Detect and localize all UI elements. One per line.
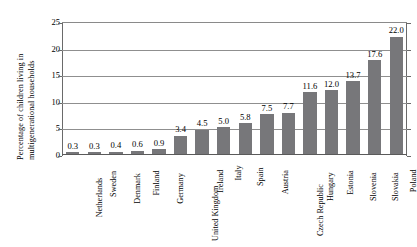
y-tick-mark-right <box>407 50 411 51</box>
x-category-label: Denmark <box>134 173 142 203</box>
x-category-label: Austria <box>282 170 290 194</box>
x-category-label-text: Estonia <box>347 170 355 195</box>
bar-value-label: 22.0 <box>389 26 404 35</box>
bar[interactable] <box>109 152 122 154</box>
bar-value-label: 0.3 <box>67 142 78 151</box>
x-category-label: Slovakia <box>392 172 400 201</box>
y-tick-mark-right <box>407 156 411 157</box>
y-tick-mark-right <box>407 23 411 24</box>
bar-slot <box>152 23 165 154</box>
bar[interactable] <box>195 130 208 154</box>
bar[interactable] <box>346 81 359 154</box>
x-category-label: Hungary <box>327 172 335 201</box>
x-category-label-text: Austria <box>282 170 290 194</box>
bar-value-label: 0.6 <box>132 140 143 149</box>
bar[interactable] <box>260 114 273 154</box>
bar-value-label: 13.7 <box>346 71 361 80</box>
y-tick-label: 5 <box>38 124 60 133</box>
bar[interactable] <box>368 60 381 154</box>
bar-slot <box>260 23 273 154</box>
bar-value-label: 3.4 <box>175 125 186 134</box>
bar-slot <box>282 23 295 154</box>
bar-value-label: 0.3 <box>89 142 100 151</box>
x-axis-category-labels: NetherlandsSwedenDenmarkFinlandGermanyUn… <box>62 158 407 246</box>
bar[interactable] <box>174 136 187 154</box>
y-tick-mark <box>58 103 62 104</box>
y-tick-label: 15 <box>38 71 60 80</box>
bar[interactable] <box>303 92 316 154</box>
x-category-label-text: Spain <box>258 167 266 186</box>
bar-slot <box>368 23 381 154</box>
bar-slot <box>195 23 208 154</box>
x-category-label-text: Ireland <box>217 170 225 193</box>
bar[interactable] <box>390 37 403 154</box>
y-tick-label: 10 <box>38 98 60 107</box>
x-category-label-text: Italy <box>234 166 242 181</box>
bar-slot <box>217 23 230 154</box>
x-category-label: Sweden <box>110 171 118 197</box>
x-category-label: Estonia <box>347 170 355 195</box>
x-category-label-text: Slovenia <box>370 172 378 201</box>
x-category-label: United Kingdom <box>211 186 219 241</box>
y-tick-label: 20 <box>38 44 60 53</box>
x-category-label-text: Slovakia <box>392 172 400 201</box>
bar-value-label: 5.8 <box>240 113 251 122</box>
x-category-label: Poland <box>411 169 417 192</box>
bar[interactable] <box>152 149 165 154</box>
bar-value-label: 0.9 <box>154 139 165 148</box>
x-category-label-text: Poland <box>411 169 417 192</box>
x-category-label-text: Netherlands <box>96 178 104 218</box>
x-category-label: Slovenia <box>370 172 378 201</box>
x-category-label-text: Germany <box>177 173 185 203</box>
bar[interactable] <box>88 152 101 154</box>
bar-chart: Percentage of children living in multige… <box>0 0 417 247</box>
bar-slot <box>174 23 187 154</box>
x-category-label: Netherlands <box>96 178 104 218</box>
bar[interactable] <box>239 123 252 154</box>
y-tick-mark <box>58 50 62 51</box>
bar-slot <box>346 23 359 154</box>
y-axis-tick-labels: 0510152025 <box>36 0 60 247</box>
x-category-label: Finland <box>153 171 161 196</box>
y-tick-mark <box>58 76 62 77</box>
bar[interactable] <box>325 90 338 154</box>
x-category-label-text: Sweden <box>110 171 118 197</box>
x-category-label-text: United Kingdom <box>211 186 219 241</box>
y-tick-label: 0 <box>38 151 60 160</box>
y-tick-mark-right <box>407 76 411 77</box>
x-category-label-text: Hungary <box>327 172 335 201</box>
bar-value-label: 12.0 <box>324 80 339 89</box>
bar[interactable] <box>66 152 79 154</box>
x-category-label-text: Denmark <box>134 173 142 203</box>
bar-value-label: 0.4 <box>111 141 122 150</box>
y-tick-mark <box>58 23 62 24</box>
y-tick-mark-right <box>407 129 411 130</box>
bar-value-label: 17.6 <box>367 50 382 59</box>
x-category-label: Ireland <box>217 170 225 193</box>
y-tick-mark-right <box>407 103 411 104</box>
bar-value-label: 7.7 <box>283 102 294 111</box>
plot-area: 0.30.30.40.60.93.44.55.05.87.57.711.612.… <box>62 22 407 155</box>
bar[interactable] <box>217 127 230 154</box>
bar-value-label: 4.5 <box>197 119 208 128</box>
bar-value-label: 11.6 <box>303 82 318 91</box>
x-category-label: Italy <box>234 166 242 181</box>
bar-value-label: 7.5 <box>261 104 272 113</box>
bar-slot <box>390 23 403 154</box>
y-tick-mark <box>58 156 62 157</box>
x-category-label-text: Czech Republic <box>317 184 325 236</box>
x-category-label-text: Finland <box>153 171 161 196</box>
y-axis-title-line-1: Percentage of children living in <box>16 54 25 160</box>
bar-slot <box>131 23 144 154</box>
bar-slot <box>66 23 79 154</box>
bar[interactable] <box>131 151 144 154</box>
bar[interactable] <box>282 113 295 154</box>
bar-slot <box>109 23 122 154</box>
bar-slot <box>239 23 252 154</box>
x-category-label: Germany <box>177 173 185 203</box>
bar-slot <box>88 23 101 154</box>
x-category-label: Czech Republic <box>317 184 325 236</box>
x-category-label: Spain <box>258 167 266 186</box>
bar-value-label: 5.0 <box>218 117 229 126</box>
y-axis-title-line-2: multigenerational households <box>27 61 36 160</box>
